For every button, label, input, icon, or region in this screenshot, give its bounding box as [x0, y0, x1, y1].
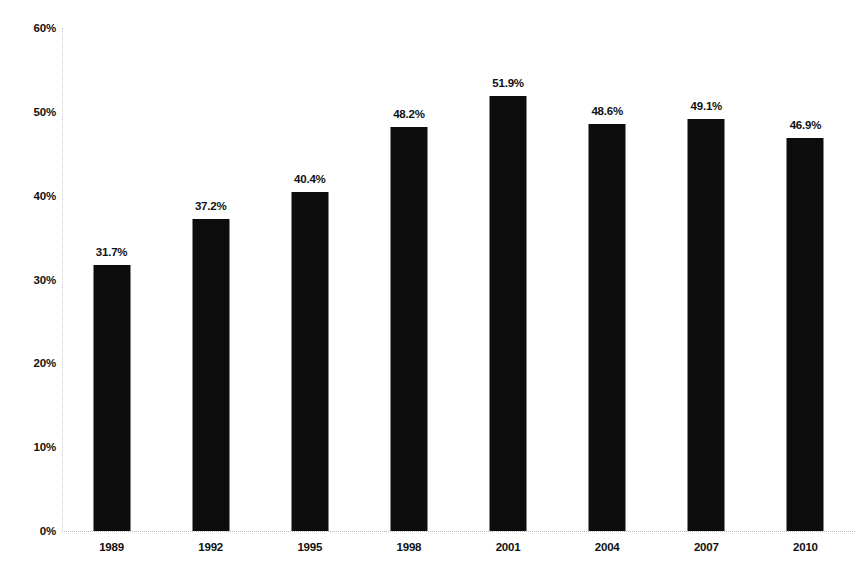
y-axis-tick-label: 30% [0, 274, 56, 286]
bar-group: 51.9% [459, 28, 558, 531]
x-axis-tick-label: 2004 [558, 540, 657, 554]
bar-value-label: 48.6% [591, 105, 623, 117]
y-axis-tick-label: 60% [0, 22, 56, 34]
bar-value-label: 31.7% [96, 246, 128, 258]
bar[interactable] [589, 124, 626, 531]
x-axis-tick-label: 2007 [657, 540, 756, 554]
y-axis-tick-label: 0% [0, 525, 56, 537]
x-axis-tick-label: 1995 [260, 540, 359, 554]
bar-value-label: 48.2% [393, 108, 425, 120]
bar-chart: 0%10%20%30%40%50%60% 31.7%37.2%40.4%48.2… [0, 0, 862, 569]
bar-value-label: 37.2% [195, 200, 227, 212]
x-axis-tick-label: 2001 [459, 540, 558, 554]
bar-group: 40.4% [260, 28, 359, 531]
bar-value-label: 49.1% [691, 100, 723, 112]
bar-group: 31.7% [62, 28, 161, 531]
bar-group: 46.9% [756, 28, 855, 531]
bar[interactable] [192, 219, 229, 531]
y-axis: 0%10%20%30%40%50%60% [0, 0, 56, 569]
bar-group: 49.1% [657, 28, 756, 531]
plot-area: 31.7%37.2%40.4%48.2%51.9%48.6%49.1%46.9% [62, 28, 855, 531]
bar-value-label: 40.4% [294, 173, 326, 185]
x-axis-line [62, 531, 855, 532]
bar-value-label: 51.9% [492, 77, 524, 89]
bar[interactable] [688, 119, 725, 531]
bar-value-label: 46.9% [790, 119, 822, 131]
x-axis-tick-label: 1989 [62, 540, 161, 554]
bar-group: 48.6% [558, 28, 657, 531]
y-axis-tick-label: 50% [0, 106, 56, 118]
y-axis-tick-label: 10% [0, 441, 56, 453]
x-axis: 19891992199519982001200420072010 [62, 540, 855, 560]
bar-group: 37.2% [161, 28, 260, 531]
x-axis-tick-label: 2010 [756, 540, 855, 554]
y-axis-tick-label: 20% [0, 357, 56, 369]
y-axis-tick-label: 40% [0, 190, 56, 202]
bar[interactable] [390, 127, 427, 531]
x-axis-tick-label: 1998 [359, 540, 458, 554]
bar[interactable] [490, 96, 527, 531]
bar-group: 48.2% [359, 28, 458, 531]
bar[interactable] [291, 192, 328, 531]
bar[interactable] [93, 265, 130, 531]
x-axis-tick-label: 1992 [161, 540, 260, 554]
bar[interactable] [787, 138, 824, 531]
